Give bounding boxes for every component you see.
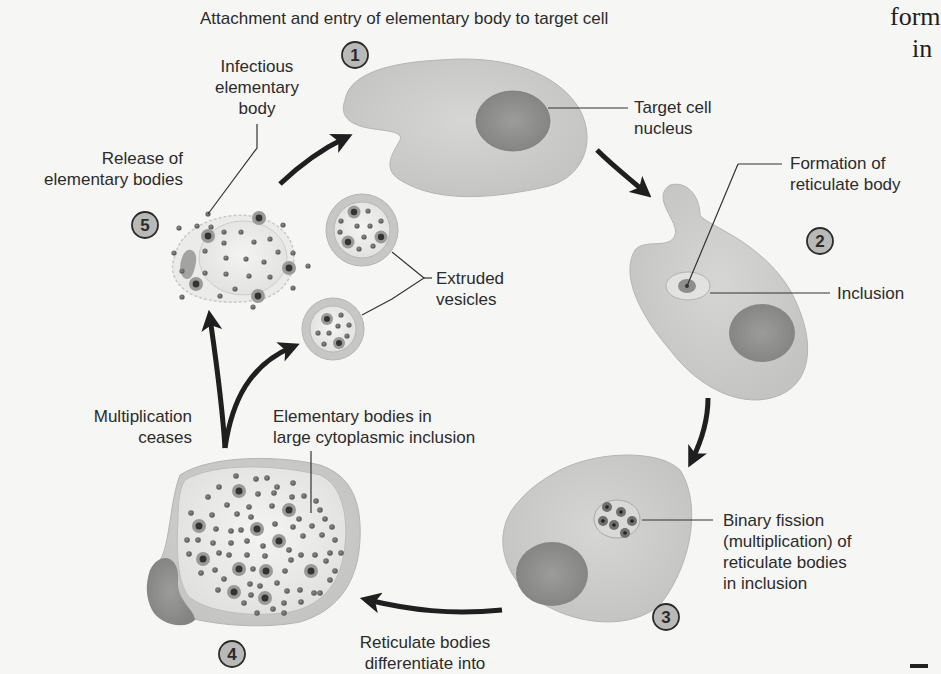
cell-2-reticulate-formation bbox=[630, 164, 830, 400]
step-number-5: 5 bbox=[132, 215, 158, 236]
side-text-line-2: in bbox=[912, 34, 932, 64]
step-number-3: 3 bbox=[653, 607, 679, 628]
arrow-3-to-4 bbox=[368, 600, 502, 612]
label-release-elementary-bodies: Release of elementary bodies bbox=[0, 148, 183, 190]
cell-2-nucleus bbox=[729, 304, 795, 362]
step-number-2: 2 bbox=[807, 231, 833, 252]
cell-4-large-inclusion bbox=[147, 451, 360, 626]
arrow-5-to-1 bbox=[280, 138, 345, 184]
label-formation-reticulate-body: Formation of reticulate body bbox=[790, 153, 901, 195]
cell-1-target-cell bbox=[343, 59, 628, 197]
label-target-cell-nucleus: Target cell nucleus bbox=[634, 97, 711, 139]
extruded-vesicle-bottom bbox=[302, 298, 364, 360]
side-text-line-1: form bbox=[890, 2, 941, 32]
step-number-1: 1 bbox=[342, 45, 368, 66]
arrow-4-to-5 bbox=[210, 318, 225, 448]
step-number-4: 4 bbox=[219, 644, 245, 665]
label-infectious-elementary-body: Infectious elementary body bbox=[198, 56, 316, 119]
arrow-2-to-3 bbox=[692, 398, 708, 460]
label-reticulate-bodies-differentiate: Reticulate bodies differentiate into bbox=[340, 632, 510, 674]
diagram-title: Attachment and entry of elementary body … bbox=[200, 8, 608, 29]
cell-5-release bbox=[171, 124, 310, 310]
cell-3-binary-fission bbox=[503, 455, 713, 622]
label-inclusion: Inclusion bbox=[837, 283, 904, 304]
label-multiplication-ceases: Multiplication ceases bbox=[40, 406, 192, 448]
label-binary-fission: Binary fission (multiplication) of retic… bbox=[723, 510, 852, 594]
label-extruded-vesicles: Extruded vesicles bbox=[436, 268, 504, 310]
label-elementary-bodies-large-inclusion: Elementary bodies in large cytoplasmic i… bbox=[273, 406, 475, 448]
cell-3-nucleus bbox=[516, 542, 588, 606]
extruded-vesicle-top bbox=[326, 194, 398, 266]
target-cell-nucleus bbox=[476, 91, 550, 151]
arrow-1-to-2 bbox=[597, 150, 645, 192]
